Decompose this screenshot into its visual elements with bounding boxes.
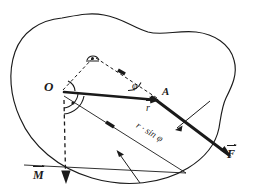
vector-glyph-f: F: [227, 145, 236, 160]
label-moment-vector-M: M: [33, 166, 44, 181]
label-origin-O: O: [44, 80, 53, 93]
figure-canvas: O A φ r · sin φ r F M: [0, 0, 257, 195]
label-force-vector-F: F: [227, 145, 236, 160]
vector-arrow-overbar-f: [227, 145, 236, 146]
label-angle-phi: φ: [132, 81, 138, 91]
leader-line-to-moment-arm: [118, 152, 140, 183]
moment-arm-parallel-line: [24, 165, 186, 173]
construction-line-o-apex: [63, 59, 92, 90]
leader-arrowhead-moment-arm: [117, 150, 125, 157]
position-vector-r: [64, 92, 159, 104]
leader-line-to-force: [177, 101, 210, 128]
label-point-A: A: [162, 86, 169, 97]
tick-mark-moment-arm: [106, 122, 114, 127]
vector-glyph-m: M: [33, 166, 44, 181]
vector-arrow-overbar-m: [33, 166, 44, 167]
vector-arrow-overbar-r: [146, 100, 154, 101]
construction-line-apex-a: [96, 58, 157, 98]
rigid-body-outline: [11, 14, 235, 184]
vector-glyph-r: r: [146, 100, 154, 113]
label-position-vector-r: r: [146, 100, 154, 113]
tick-mark-construction: [118, 70, 125, 74]
